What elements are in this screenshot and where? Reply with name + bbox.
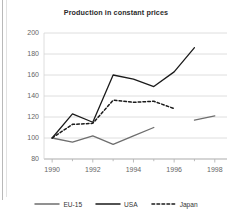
legend-label: USA xyxy=(124,201,138,208)
plot-area: 80100120140160180200 1990199219941996199… xyxy=(0,28,232,173)
x-tick-label: 1990 xyxy=(44,166,60,173)
x-tick-label: 1996 xyxy=(166,166,182,173)
legend-item-japan[interactable]: Japan xyxy=(151,200,198,208)
chart-title: Production in constant prices xyxy=(0,8,232,17)
legend-label: Japan xyxy=(180,201,198,208)
legend-swatch-usa xyxy=(95,200,121,208)
y-tick-label: 80 xyxy=(31,155,39,162)
x-axis-tick-labels: 19901992199419961998 xyxy=(44,166,222,173)
gridlines xyxy=(44,33,227,159)
x-tick-label: 1998 xyxy=(207,166,223,173)
y-tick-label: 180 xyxy=(27,50,39,57)
legend-swatch-japan xyxy=(151,200,177,208)
legend-item-eu-15[interactable]: EU-15 xyxy=(34,200,82,208)
y-tick-label: 100 xyxy=(27,134,39,141)
chart-legend: EU-15USAJapan xyxy=(0,192,232,216)
legend-item-usa[interactable]: USA xyxy=(95,200,138,208)
chart-figure: Production in constant prices 8010012014… xyxy=(0,0,232,221)
y-tick-label: 140 xyxy=(27,92,39,99)
series-line-japan xyxy=(52,100,174,138)
y-tick-label: 160 xyxy=(27,71,39,78)
series-line-eu-15 xyxy=(194,116,214,120)
x-tick-label: 1992 xyxy=(85,166,101,173)
legend-swatch-eu-15 xyxy=(34,200,60,208)
y-axis-tick-labels: 80100120140160180200 xyxy=(27,29,39,162)
series-line-eu-15 xyxy=(52,128,154,145)
x-tick-label: 1994 xyxy=(126,166,142,173)
legend-label: EU-15 xyxy=(63,201,82,208)
y-tick-label: 200 xyxy=(27,29,39,36)
x-axis xyxy=(44,33,227,163)
line-chart-svg: 80100120140160180200 1990199219941996199… xyxy=(0,28,232,173)
y-tick-label: 120 xyxy=(27,113,39,120)
